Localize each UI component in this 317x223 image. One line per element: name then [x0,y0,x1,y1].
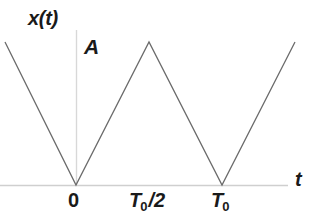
x-axis-title: t [295,169,302,189]
triangular-waveform-figure: x(t) A t 0 T0/2 T0 [0,0,317,223]
x-tick-label-origin: 0 [68,190,79,210]
amplitude-label: A [84,36,99,57]
half-period-suffix: /2 [148,189,165,211]
waveform-trace [5,42,295,185]
x-tick-label-half-period: T0/2 [129,190,165,210]
y-axis-title: x(t) [28,8,58,28]
half-period-subscript: 0 [140,199,147,214]
period-subscript: 0 [222,199,229,214]
x-tick-label-period: T0 [211,190,230,210]
